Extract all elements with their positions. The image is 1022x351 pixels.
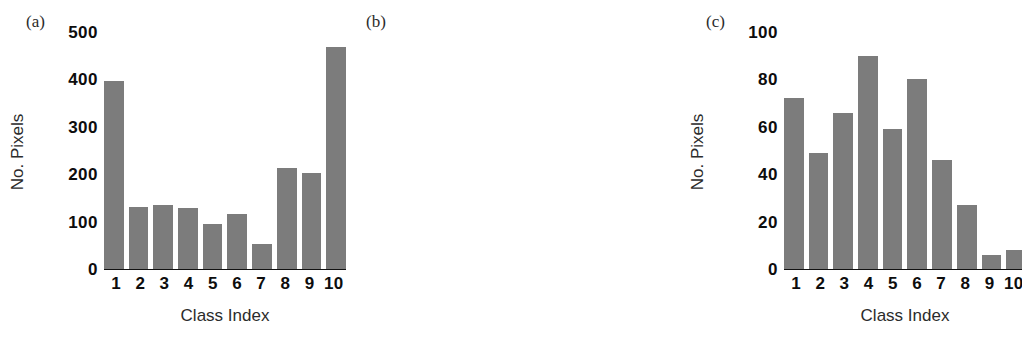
- y-tick-labels-a: 0100200300400500: [46, 0, 98, 351]
- y-tick-label: 0: [88, 260, 98, 280]
- y-tick-label: 500: [68, 23, 98, 43]
- bar: [227, 214, 247, 269]
- bar: [302, 173, 322, 269]
- x-tick-label: 1: [104, 274, 128, 294]
- x-tick-labels-a: 12345678910: [104, 274, 346, 294]
- x-tick-label: 4: [177, 274, 201, 294]
- y-tick-label: 400: [68, 70, 98, 90]
- x-tick-label: 2: [128, 274, 152, 294]
- x-tick-label: 8: [273, 274, 297, 294]
- bars-container-a: [104, 33, 346, 270]
- panel-b: (b) No. Pixels 020406080100 12345678910 …: [340, 0, 680, 351]
- bar: [252, 244, 272, 269]
- bar: [277, 168, 297, 269]
- x-tick-label: 6: [225, 274, 249, 294]
- bar: [153, 205, 173, 269]
- plot-area-b: 020406080100 12345678910 Class Index: [340, 0, 680, 351]
- y-tick-label: 200: [68, 165, 98, 185]
- panel-a: (a) No. Pixels 0100200300400500 12345678…: [0, 0, 340, 351]
- y-tick-label: 100: [68, 213, 98, 233]
- bar: [203, 224, 223, 270]
- x-axis-line-a: [104, 269, 346, 270]
- x-axis-title-a: Class Index: [104, 306, 346, 326]
- x-tick-label: 5: [201, 274, 225, 294]
- bar: [104, 81, 124, 269]
- figure-three-histograms: (a) No. Pixels 0100200300400500 12345678…: [0, 0, 1022, 351]
- x-tick-label: 3: [152, 274, 176, 294]
- x-tick-label: 9: [298, 274, 322, 294]
- bar: [178, 208, 198, 269]
- bar: [129, 207, 149, 269]
- y-tick-label: 300: [68, 118, 98, 138]
- x-tick-label: 7: [249, 274, 273, 294]
- plot-area-c: 020406080100120 12345678910 Class Index: [680, 0, 1022, 351]
- panel-c: (c) No. Pixels 020406080100120 123456789…: [680, 0, 1022, 351]
- plot-area-a: 0100200300400500 12345678910 Class Index: [0, 0, 340, 351]
- bar-series-a: [104, 33, 346, 269]
